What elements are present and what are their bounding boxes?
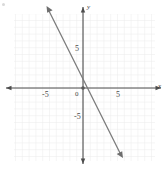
origin-point [81,86,85,90]
coordinate-plane [0,0,167,169]
x-tick-label-positive-five: 5 [116,91,120,99]
y-tick-label-positive-five: 5 [75,45,79,53]
y-axis-label: y [87,4,90,11]
x-axis-label: x [158,83,161,90]
y-tick-label-negative-five: -5 [74,113,81,121]
x-tick-label-negative-five: -5 [42,91,49,99]
origin-label: 0 [75,91,79,98]
graph-figure: x y -5 5 5 -5 0 [0,0,167,169]
